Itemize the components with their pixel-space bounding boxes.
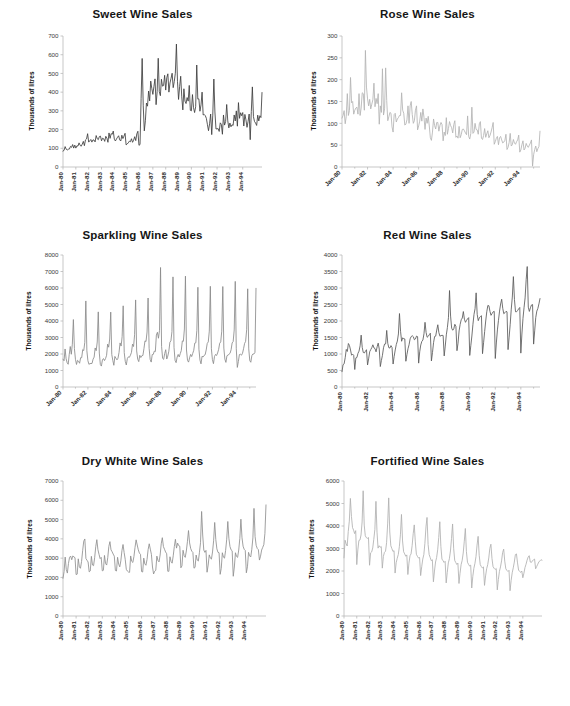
series-line: [344, 491, 542, 591]
svg-text:3500: 3500: [324, 268, 338, 275]
svg-text:Jan-88: Jan-88: [438, 391, 445, 411]
svg-text:Jan-87: Jan-87: [149, 620, 156, 640]
svg-text:Jan-88: Jan-88: [160, 171, 167, 191]
svg-text:150: 150: [327, 98, 338, 105]
svg-text:200: 200: [48, 126, 59, 133]
series-line: [342, 50, 540, 166]
svg-text:6000: 6000: [45, 284, 59, 291]
svg-text:Jan-82: Jan-82: [364, 620, 371, 640]
svg-text:Jan-80: Jan-80: [44, 388, 63, 407]
svg-text:3000: 3000: [45, 334, 59, 341]
svg-text:Jan-86: Jan-86: [136, 620, 143, 640]
svg-text:Jan-86: Jan-86: [134, 171, 141, 191]
svg-text:Jan-80: Jan-80: [323, 168, 342, 187]
svg-text:200: 200: [327, 76, 338, 83]
svg-text:2000: 2000: [326, 567, 340, 574]
svg-text:Jan-91: Jan-91: [198, 171, 205, 191]
svg-text:Jan-83: Jan-83: [96, 171, 103, 191]
svg-text:3000: 3000: [326, 545, 340, 552]
svg-text:Jan-92: Jan-92: [211, 171, 218, 191]
svg-text:Jan-87: Jan-87: [147, 171, 154, 191]
svg-text:100: 100: [48, 144, 59, 151]
svg-text:Thousands of litres: Thousands of litres: [26, 519, 33, 578]
svg-text:3000: 3000: [324, 284, 338, 291]
svg-text:4000: 4000: [324, 251, 338, 258]
series-line: [63, 44, 262, 151]
series-line: [63, 268, 256, 368]
svg-text:Jan-90: Jan-90: [188, 620, 195, 640]
chart-svg-red-wine: 05001000150020002500300035004000Thousand…: [285, 225, 570, 445]
svg-text:2000: 2000: [45, 574, 59, 581]
svg-text:Jan-88: Jan-88: [440, 620, 447, 640]
svg-text:Jan-82: Jan-82: [69, 388, 88, 407]
chart-panel-dry-white-wine: Dry White Wine Sales 0100020003000400050…: [0, 445, 285, 706]
svg-text:Jan-86: Jan-86: [119, 388, 138, 407]
svg-text:Jan-90: Jan-90: [466, 620, 473, 640]
svg-text:Jan-89: Jan-89: [453, 620, 460, 640]
svg-text:Jan-87: Jan-87: [427, 620, 434, 640]
svg-text:Jan-85: Jan-85: [121, 171, 128, 191]
svg-text:Thousands of litres: Thousands of litres: [25, 291, 32, 350]
svg-text:500: 500: [327, 367, 338, 374]
chart-panel-sweet-wine: Sweet Wine Sales 0100200300400500600700T…: [0, 0, 285, 225]
svg-text:Jan-94: Jan-94: [218, 388, 237, 407]
svg-text:50: 50: [331, 141, 338, 148]
svg-text:5000: 5000: [326, 500, 340, 507]
svg-text:Jan-92: Jan-92: [476, 168, 495, 187]
svg-text:Jan-94: Jan-94: [240, 620, 247, 640]
svg-text:Jan-83: Jan-83: [376, 620, 383, 640]
chart-panel-sparkling-wine: Sparkling Wine Sales 0100020003000400050…: [0, 225, 285, 445]
svg-text:300: 300: [327, 32, 338, 39]
svg-text:Jan-80: Jan-80: [336, 391, 343, 411]
svg-text:4000: 4000: [45, 317, 59, 324]
svg-text:1500: 1500: [324, 334, 338, 341]
svg-text:5000: 5000: [45, 301, 59, 308]
svg-text:Jan-86: Jan-86: [415, 620, 422, 640]
svg-text:Thousands of litres: Thousands of litres: [310, 71, 317, 130]
svg-text:Jan-84: Jan-84: [108, 171, 115, 191]
chart-panel-rose-wine: Rose Wine Sales 050100150200250300Thousa…: [285, 0, 570, 225]
chart-panel-red-wine: Red Wine Sales 0500100015002000250030003…: [285, 225, 570, 445]
svg-text:Jan-85: Jan-85: [402, 620, 409, 640]
svg-text:Jan-80: Jan-80: [57, 171, 64, 191]
chart-svg-sweet-wine: 0100200300400500600700Thousands of litre…: [0, 0, 285, 225]
svg-text:0: 0: [336, 612, 340, 619]
svg-text:Jan-90: Jan-90: [185, 171, 192, 191]
svg-text:Jan-90: Jan-90: [464, 391, 471, 411]
svg-text:Jan-82: Jan-82: [348, 168, 367, 187]
svg-text:Thousands of litres: Thousands of litres: [308, 519, 315, 578]
svg-text:Jan-88: Jan-88: [162, 620, 169, 640]
svg-text:700: 700: [48, 32, 59, 39]
svg-text:2000: 2000: [324, 317, 338, 324]
svg-text:Jan-92: Jan-92: [491, 620, 498, 640]
chart-svg-fortified-wine: 0100020003000400050006000Thousands of li…: [285, 445, 570, 706]
chart-panel-fortified-wine: Fortified Wine Sales 0100020003000400050…: [285, 445, 570, 706]
svg-text:Jan-82: Jan-82: [362, 391, 369, 411]
svg-text:Jan-84: Jan-84: [389, 620, 396, 640]
svg-text:Jan-93: Jan-93: [504, 620, 511, 640]
svg-text:Jan-80: Jan-80: [57, 620, 64, 640]
svg-text:1000: 1000: [326, 590, 340, 597]
svg-text:Jan-81: Jan-81: [70, 620, 77, 640]
chart-svg-dry-white-wine: 01000200030004000500060007000Thousands o…: [0, 445, 285, 706]
svg-text:Jan-81: Jan-81: [70, 171, 77, 191]
svg-text:Jan-89: Jan-89: [175, 620, 182, 640]
svg-text:Jan-82: Jan-82: [83, 171, 90, 191]
svg-text:Jan-86: Jan-86: [413, 391, 420, 411]
svg-text:Jan-86: Jan-86: [400, 168, 419, 187]
svg-text:7000: 7000: [45, 477, 59, 484]
svg-text:Jan-91: Jan-91: [201, 620, 208, 640]
svg-text:Thousands of litres: Thousands of litres: [312, 291, 319, 350]
svg-text:Jan-91: Jan-91: [479, 620, 486, 640]
svg-text:1000: 1000: [45, 367, 59, 374]
svg-text:Jan-92: Jan-92: [489, 391, 496, 411]
svg-text:Jan-93: Jan-93: [224, 171, 231, 191]
svg-text:Jan-93: Jan-93: [227, 620, 234, 640]
svg-text:3000: 3000: [45, 554, 59, 561]
svg-text:Jan-88: Jan-88: [425, 168, 444, 187]
svg-text:0: 0: [334, 383, 338, 390]
svg-text:Jan-80: Jan-80: [338, 620, 345, 640]
svg-text:250: 250: [327, 54, 338, 61]
svg-text:Jan-82: Jan-82: [83, 620, 90, 640]
svg-text:100: 100: [327, 120, 338, 127]
